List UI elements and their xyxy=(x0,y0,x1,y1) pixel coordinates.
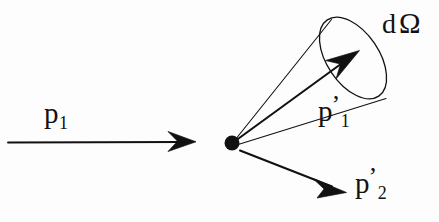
recoil-momentum-arrow xyxy=(240,151,347,199)
recoil-momentum-arrowhead xyxy=(313,179,347,199)
label-incoming-momentum-base: p xyxy=(44,97,59,129)
label-scattered-momentum-prime: ’ xyxy=(332,90,341,119)
label-recoil-momentum-base: p xyxy=(355,167,370,199)
label-incoming-momentum-subscript: 1 xyxy=(59,113,68,133)
label-incoming-momentum: p1 xyxy=(44,99,68,132)
incoming-momentum-arrow xyxy=(8,132,196,152)
scattering-vertex-dot xyxy=(225,136,240,151)
label-solid-angle-omega-symbol: Ω xyxy=(399,7,421,39)
scattering-diagram-figure: p1 p’1 p’2 dΩ xyxy=(0,0,439,222)
label-scattered-momentum-base: p xyxy=(318,95,333,127)
cone-generator-lower-line xyxy=(235,99,386,146)
label-recoil-momentum-prime: ’ xyxy=(369,162,378,191)
label-solid-angle-differential: d xyxy=(382,8,396,39)
label-scattered-momentum-subscript: 1 xyxy=(341,111,350,131)
incoming-momentum-shaft xyxy=(8,142,182,143)
label-scattered-momentum: p’1 xyxy=(318,92,350,130)
scattered-momentum-arrowhead xyxy=(326,51,360,80)
label-solid-angle: dΩ xyxy=(382,9,421,38)
label-recoil-momentum: p’2 xyxy=(355,164,387,202)
label-recoil-momentum-subscript: 2 xyxy=(378,183,387,203)
